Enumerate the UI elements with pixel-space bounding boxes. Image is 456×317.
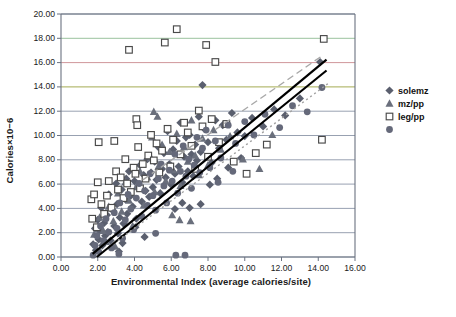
data-point bbox=[155, 175, 162, 182]
data-point bbox=[169, 178, 176, 185]
data-point bbox=[91, 191, 98, 198]
data-point bbox=[198, 81, 206, 89]
x-tick-label: 2.00 bbox=[78, 263, 118, 273]
x-tick-label: 16.00 bbox=[335, 263, 375, 273]
data-point bbox=[199, 145, 206, 152]
data-point bbox=[243, 170, 250, 177]
legend-label: mz/pp bbox=[398, 99, 424, 109]
legend-item-leg-pp[interactable]: leg/pp bbox=[383, 110, 429, 123]
data-point bbox=[127, 206, 134, 213]
data-point bbox=[203, 127, 210, 134]
data-point bbox=[153, 140, 160, 147]
y-tick-label: 0.00 bbox=[19, 252, 55, 262]
scatter-chart: Calories×10−6 Environmental Index (avera… bbox=[0, 0, 456, 317]
data-point bbox=[212, 59, 219, 66]
legend-label: solemz bbox=[398, 86, 429, 96]
data-point bbox=[212, 138, 219, 145]
y-tick-label: 20.00 bbox=[19, 9, 55, 19]
data-point bbox=[149, 192, 156, 199]
diamond-marker-icon bbox=[383, 85, 396, 96]
legend-label: leg/pp bbox=[398, 112, 425, 122]
data-point bbox=[268, 131, 276, 138]
data-point bbox=[150, 157, 157, 164]
data-point bbox=[386, 99, 394, 106]
data-point bbox=[105, 178, 112, 185]
y-tick-label: 18.00 bbox=[19, 33, 55, 43]
trendline-solid-lower bbox=[97, 70, 327, 257]
legend-item-solemz[interactable]: solemz bbox=[383, 84, 429, 97]
data-point bbox=[320, 36, 327, 43]
data-point bbox=[109, 217, 117, 224]
data-point bbox=[206, 181, 214, 189]
data-point bbox=[180, 142, 187, 149]
data-point bbox=[203, 42, 210, 49]
data-point bbox=[181, 119, 188, 126]
data-point bbox=[94, 179, 101, 186]
data-point bbox=[176, 216, 184, 223]
data-point bbox=[141, 233, 149, 241]
x-tick-label: 12.00 bbox=[262, 263, 302, 273]
y-tick-label: 16.00 bbox=[19, 57, 55, 67]
data-point bbox=[116, 200, 123, 207]
data-point bbox=[304, 108, 311, 115]
data-point bbox=[122, 156, 129, 163]
data-point bbox=[162, 39, 169, 46]
y-tick-label: 12.00 bbox=[19, 106, 55, 116]
y-tick-label: 2.00 bbox=[19, 227, 55, 237]
circle-marker-icon bbox=[383, 124, 396, 135]
data-point bbox=[264, 141, 271, 148]
legend-item-unlabeled[interactable] bbox=[383, 123, 429, 136]
data-point bbox=[184, 129, 191, 136]
data-point bbox=[134, 122, 141, 129]
data-point bbox=[255, 165, 263, 172]
data-point bbox=[136, 180, 143, 187]
trendline-dotted-lower bbox=[118, 83, 329, 241]
data-point bbox=[164, 126, 171, 133]
data-point bbox=[208, 116, 215, 123]
y-tick-label: 4.00 bbox=[19, 203, 55, 213]
data-point bbox=[125, 191, 132, 198]
x-axis-title: Environmental Index (average calories/si… bbox=[96, 276, 326, 288]
x-tick-label: 6.00 bbox=[151, 263, 191, 273]
data-point bbox=[117, 174, 124, 181]
data-point bbox=[172, 151, 179, 158]
data-point bbox=[115, 186, 122, 193]
legend-item-mz-pp[interactable]: mz/pp bbox=[383, 97, 429, 110]
data-point bbox=[111, 209, 118, 216]
data-point bbox=[166, 167, 173, 174]
data-point bbox=[124, 180, 131, 187]
chart-legend: solemzmz/ppleg/pp bbox=[383, 84, 429, 136]
data-point bbox=[386, 126, 393, 133]
x-tick-label: 14.00 bbox=[298, 263, 338, 273]
data-point bbox=[187, 116, 195, 123]
x-tick-label: 10.00 bbox=[225, 263, 265, 273]
data-point bbox=[241, 118, 248, 125]
data-point bbox=[152, 230, 159, 237]
data-point bbox=[126, 47, 133, 54]
data-point bbox=[97, 223, 104, 230]
data-point bbox=[194, 134, 201, 141]
data-point bbox=[252, 150, 259, 157]
data-point bbox=[161, 183, 168, 190]
data-point bbox=[178, 199, 186, 207]
y-tick-label: 10.00 bbox=[19, 130, 55, 140]
data-point bbox=[281, 111, 289, 119]
x-tick-label: 8.00 bbox=[188, 263, 228, 273]
data-point bbox=[185, 156, 192, 163]
data-point bbox=[139, 161, 146, 168]
data-point bbox=[230, 158, 237, 165]
data-point bbox=[103, 215, 110, 222]
x-tick-label: 4.00 bbox=[115, 263, 155, 273]
data-point bbox=[141, 187, 148, 194]
y-axis-title: Calories×10−6 bbox=[4, 91, 15, 211]
data-point bbox=[92, 242, 99, 249]
data-point bbox=[93, 232, 100, 239]
data-point bbox=[215, 179, 222, 186]
x-tick-label: 0.00 bbox=[41, 263, 81, 273]
data-point bbox=[115, 251, 122, 258]
data-point bbox=[170, 136, 177, 143]
triangle-marker-icon bbox=[383, 98, 396, 109]
data-point bbox=[173, 26, 180, 33]
data-point bbox=[187, 217, 195, 224]
data-point bbox=[132, 170, 139, 177]
